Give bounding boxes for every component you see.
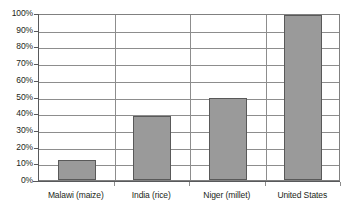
x-tick-mark-4 — [340, 182, 341, 186]
y-tick-mark-50 — [34, 98, 38, 99]
bar-india-rice — [133, 116, 171, 180]
bar-united-states — [284, 15, 322, 180]
y-tick-mark-40 — [34, 114, 38, 115]
y-tick-mark-80 — [34, 47, 38, 48]
bar-chart: 100% 90% 80% 70% 60% 50% 40% 30% 20% 10%… — [0, 0, 352, 215]
x-label-india-rice: India (rice) — [114, 190, 190, 201]
plot-area — [38, 14, 340, 181]
category-separator-2 — [190, 15, 191, 180]
y-tick-mark-0 — [34, 181, 38, 182]
y-tick-label-80: 80% — [0, 42, 33, 51]
y-axis-tick-labels: 100% 90% 80% 70% 60% 50% 40% 30% 20% 10%… — [0, 0, 33, 215]
x-tick-mark-3 — [265, 182, 266, 186]
y-tick-label-70: 70% — [0, 59, 33, 68]
category-separator-1 — [115, 15, 116, 180]
y-tick-label-20: 20% — [0, 143, 33, 152]
y-tick-mark-100 — [34, 14, 38, 15]
bar-niger-millet — [209, 98, 247, 181]
x-tick-mark-2 — [189, 182, 190, 186]
y-tick-label-60: 60% — [0, 76, 33, 85]
y-tick-mark-90 — [34, 31, 38, 32]
category-separator-3 — [266, 15, 267, 180]
y-tick-label-30: 30% — [0, 126, 33, 135]
y-tick-mark-70 — [34, 64, 38, 65]
x-label-united-states: United States — [265, 190, 341, 201]
x-axis-category-labels: Malawi (maize) India (rice) Niger (mille… — [38, 190, 340, 210]
x-label-niger-millet: Niger (millet) — [189, 190, 265, 201]
x-label-malawi-maize: Malawi (maize) — [38, 190, 114, 201]
bar-malawi-maize — [58, 160, 96, 180]
x-tick-mark-1 — [114, 182, 115, 186]
y-tick-label-10: 10% — [0, 159, 33, 168]
y-tick-mark-60 — [34, 81, 38, 82]
y-tick-label-90: 90% — [0, 26, 33, 35]
x-axis-line — [33, 181, 340, 182]
y-tick-mark-30 — [34, 131, 38, 132]
y-tick-label-0: 0% — [0, 176, 33, 185]
y-tick-label-50: 50% — [0, 93, 33, 102]
y-tick-mark-20 — [34, 148, 38, 149]
y-tick-label-40: 40% — [0, 109, 33, 118]
y-axis-line — [38, 14, 39, 182]
y-tick-mark-10 — [34, 164, 38, 165]
y-tick-label-100: 100% — [0, 9, 33, 18]
